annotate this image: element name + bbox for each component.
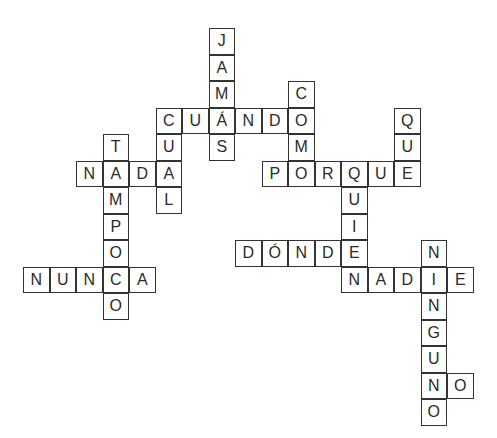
crossword-cell: O [103,240,130,267]
crossword-cell: M [103,187,130,214]
crossword-cell: Q [394,108,421,135]
crossword-cell: D [262,108,289,135]
crossword-cell: C [288,81,315,108]
crossword-cell: E [394,161,421,188]
crossword-cell: N [421,293,448,320]
crossword-cell: M [209,81,236,108]
crossword-cell: U [394,134,421,161]
crossword-cell: A [129,267,156,294]
crossword-cell: D [394,267,421,294]
crossword-cell: P [103,214,130,241]
crossword-cell: O [421,399,448,426]
crossword-cell: G [421,320,448,347]
crossword-cell: N [341,267,368,294]
crossword-cell: Q [341,161,368,188]
crossword-cell: N [421,373,448,400]
crossword-cell: N [76,267,103,294]
crossword-cell: I [341,214,368,241]
crossword-cell: N [235,108,262,135]
crossword-cell: A [156,161,183,188]
crossword-cell: L [156,187,183,214]
crossword-cell: U [182,108,209,135]
crossword-cell: U [368,161,395,188]
crossword-cell: D [235,240,262,267]
crossword-cell: N [23,267,50,294]
crossword-cell: O [288,161,315,188]
crossword-cell: O [447,373,474,400]
crossword-cell: P [262,161,289,188]
crossword-cell: E [341,240,368,267]
crossword-cell: D [129,161,156,188]
crossword-cell: O [103,293,130,320]
crossword-cell: R [315,161,342,188]
crossword-cell: O [288,108,315,135]
crossword-cell: U [50,267,77,294]
crossword-cell: A [368,267,395,294]
crossword-cell: U [156,134,183,161]
crossword-cell: N [288,240,315,267]
crossword-cell: C [156,108,183,135]
crossword-cell: D [315,240,342,267]
crossword-cell: A [103,161,130,188]
crossword-cell: Á [209,108,236,135]
crossword-cell: Ó [262,240,289,267]
crossword-cell: J [209,28,236,55]
crossword-cell: N [76,161,103,188]
crossword-cell: C [103,267,130,294]
crossword-cell: N [421,240,448,267]
crossword-cell: T [103,134,130,161]
crossword-grid: JAMÁSCUNDOCMOQUEUALTAMPOCONDPRQUUIENDÓND… [0,0,497,438]
crossword-cell: E [447,267,474,294]
crossword-cell: A [209,55,236,82]
crossword-cell: U [341,187,368,214]
crossword-cell: I [421,267,448,294]
crossword-cell: M [288,134,315,161]
crossword-cell: S [209,134,236,161]
crossword-cell: U [421,346,448,373]
